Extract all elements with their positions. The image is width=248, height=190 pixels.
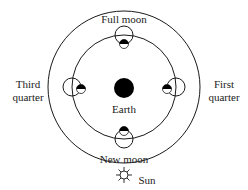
sun-icon xyxy=(116,167,132,183)
earth-icon xyxy=(114,78,134,98)
first-quarter-label-line2: quarter xyxy=(204,91,244,103)
first-quarter-label-line1: First xyxy=(204,78,244,90)
new-moon-icon xyxy=(115,127,133,149)
first-quarter-moon-icon xyxy=(163,78,186,96)
third-quarter-label-line2: quarter xyxy=(8,91,48,103)
earth-label: Earth xyxy=(104,103,144,115)
third-quarter-label-line1: Third xyxy=(8,78,48,90)
sun-label: Sun xyxy=(135,174,159,186)
third-quarter-moon-icon xyxy=(63,78,86,96)
new-moon-label: New moon xyxy=(98,153,150,165)
full-moon-label: Full moon xyxy=(99,13,149,25)
moon-phase-diagram: Full moon Earth New moon Sun Third quart… xyxy=(0,0,248,190)
full-moon-icon xyxy=(115,26,133,49)
